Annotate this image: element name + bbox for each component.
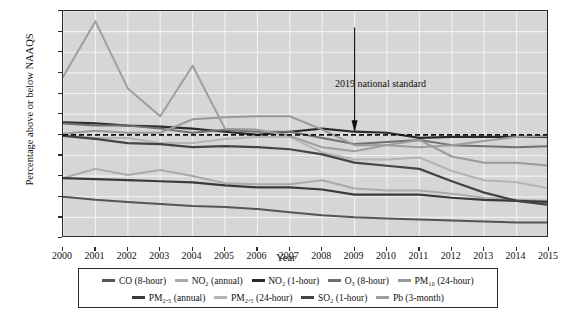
legend-item[interactable]: NO₂ (1-hour) [252, 276, 320, 286]
x-tick-mark [256, 247, 257, 251]
series-line-0 [63, 197, 548, 223]
plot-area [62, 10, 548, 237]
legend-row-1: CO (8-hour)NO₂ (annual)NO₂ (1-hour)O₃ (8… [84, 272, 492, 289]
x-tick-mark [516, 247, 517, 251]
x-tick-mark [159, 247, 160, 251]
x-tick-mark [289, 247, 290, 251]
legend-label: PM₁₀ (24-hour) [414, 276, 473, 286]
y-tick-mark [58, 196, 62, 197]
x-tick-mark [94, 247, 95, 251]
legend-item[interactable]: NO₂ (annual) [175, 276, 243, 286]
legend-swatch-icon [132, 296, 145, 299]
legend-label: NO₂ (1-hour) [268, 276, 319, 286]
x-tick-mark [224, 247, 225, 251]
legend-item[interactable]: CO (8-hour) [102, 276, 166, 286]
y-tick-mark [58, 175, 62, 176]
y-tick-mark [58, 93, 62, 94]
legend-item[interactable]: PM₁₀ (24-hour) [398, 276, 474, 286]
y-tick-mark [58, 154, 62, 155]
legend-swatch-icon [328, 279, 341, 282]
x-tick-mark [192, 247, 193, 251]
legend-row-2: PM₂.₅ (annual)PM₂.₅ (24-hour)SO₂ (1-hour… [84, 289, 492, 306]
legend-item[interactable]: PM₂.₅ (annual) [132, 293, 205, 303]
y-tick-mark [58, 31, 62, 32]
x-tick-mark [354, 247, 355, 251]
chart-legend: CO (8-hour)NO₂ (annual)NO₂ (1-hour)O₃ (8… [78, 268, 498, 308]
x-tick-mark [386, 247, 387, 251]
x-tick-mark [548, 247, 549, 251]
plot-wrapper: 120%100806040200–20–40–60–80–100 2000200… [62, 10, 548, 237]
y-tick-mark [58, 237, 62, 238]
standard-annotation: 2019 national standard [335, 78, 426, 89]
legend-label: PM₂.₅ (annual) [149, 293, 206, 303]
legend-item[interactable]: PM₂.₅ (24-hour) [214, 293, 292, 303]
legend-swatch-icon [398, 279, 411, 282]
x-tick-mark [418, 247, 419, 251]
legend-label: CO (8-hour) [119, 276, 166, 286]
y-tick-mark [58, 10, 62, 11]
legend-swatch-icon [301, 296, 314, 299]
legend-swatch-icon [175, 279, 188, 282]
legend-swatch-icon [102, 279, 115, 282]
x-axis-title: Year [0, 252, 572, 263]
legend-swatch-icon [214, 296, 227, 299]
legend-swatch-icon [252, 279, 265, 282]
legend-label: Pb (3-month) [393, 293, 444, 303]
x-tick-mark [321, 247, 322, 251]
y-tick-mark [58, 72, 62, 73]
legend-item[interactable]: O₃ (8-hour) [328, 276, 389, 286]
x-tick-mark [451, 247, 452, 251]
x-tick-mark [62, 247, 63, 251]
legend-label: SO₂ (1-hour) [318, 293, 368, 303]
series-line-1 [63, 169, 548, 201]
legend-label: PM₂.₅ (24-hour) [231, 293, 293, 303]
chart-figure: Percentage above or below NAAQS 120%1008… [0, 0, 572, 315]
legend-item[interactable]: SO₂ (1-hour) [301, 293, 367, 303]
legend-label: NO₂ (annual) [192, 276, 243, 286]
y-tick-mark [58, 216, 62, 217]
legend-label: O₃ (8-hour) [345, 276, 389, 286]
y-tick-mark [58, 134, 62, 135]
x-tick-mark [127, 247, 128, 251]
chart-canvas [63, 11, 548, 237]
legend-item[interactable]: Pb (3-month) [376, 293, 443, 303]
y-tick-mark [58, 51, 62, 52]
legend-swatch-icon [376, 296, 389, 299]
y-axis-title: Percentage above or below NAAQS [24, 25, 35, 195]
y-tick-mark [58, 113, 62, 114]
x-tick-mark [483, 247, 484, 251]
